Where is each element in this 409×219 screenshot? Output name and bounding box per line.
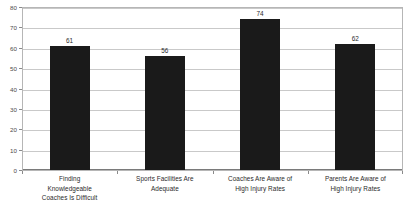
x-category-label-line: Adequate [117, 184, 212, 194]
x-category-label: FindingKnowledgeableCoaches Is Difficult [22, 174, 117, 203]
bar[interactable] [145, 56, 185, 170]
x-tick-mark [22, 171, 23, 174]
bar-group[interactable]: 56 [117, 7, 212, 170]
y-tick-label: 40 [10, 85, 17, 92]
x-axis: FindingKnowledgeableCoaches Is Difficult… [22, 174, 403, 219]
y-axis: 01020304050607080 [0, 0, 22, 178]
y-tick-label: 50 [10, 65, 17, 72]
x-tick-mark [308, 171, 309, 174]
bar-value-label: 62 [352, 35, 359, 42]
x-tick-mark [213, 171, 214, 174]
x-category-label: Sports Facilities AreAdequate [117, 174, 212, 193]
bar-chart: 01020304050607080 61567462 FindingKnowle… [0, 0, 409, 219]
y-tick-label: 80 [10, 4, 17, 11]
y-tick-label: 10 [10, 146, 17, 153]
bar-group[interactable]: 61 [22, 7, 117, 170]
bar[interactable] [50, 46, 90, 170]
x-category-label-line: High Injury Rates [308, 184, 403, 194]
x-category-label-line: Knowledgeable [22, 184, 117, 194]
x-category-label-line: Coaches Are Aware of [213, 174, 308, 184]
bar-value-label: 56 [161, 47, 168, 54]
x-category-label: Coaches Are Aware ofHigh Injury Rates [213, 174, 308, 193]
y-tick-label: 0 [13, 167, 17, 174]
y-tick-label: 70 [10, 24, 17, 31]
bar-value-label: 61 [66, 37, 73, 44]
y-tick-label: 20 [10, 126, 17, 133]
x-category-label-line: High Injury Rates [213, 184, 308, 194]
bar[interactable] [335, 44, 375, 170]
x-category-label: Parents Are Aware ofHigh Injury Rates [308, 174, 403, 193]
x-category-label-line: Sports Facilities Are [117, 174, 212, 184]
bar[interactable] [240, 19, 280, 170]
y-tick-label: 60 [10, 44, 17, 51]
x-tick-mark [117, 171, 118, 174]
x-category-label-line: Coaches Is Difficult [22, 193, 117, 203]
bar-group[interactable]: 62 [308, 7, 403, 170]
bars-layer: 61567462 [22, 7, 403, 171]
x-tick-mark [402, 171, 403, 174]
bar-value-label: 74 [256, 10, 263, 17]
x-category-label-line: Parents Are Aware of [308, 174, 403, 184]
y-tick-label: 30 [10, 105, 17, 112]
bar-group[interactable]: 74 [213, 7, 308, 170]
x-category-label-line: Finding [22, 174, 117, 184]
